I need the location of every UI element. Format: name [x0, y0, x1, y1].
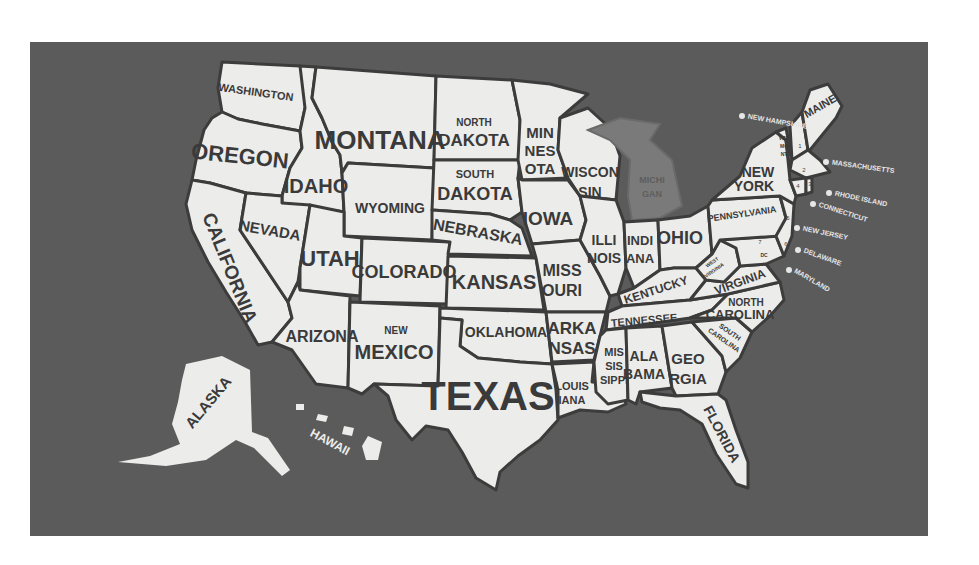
callout-delaware: DELAWARE	[795, 247, 843, 267]
hawaii-kauai[interactable]	[296, 404, 304, 410]
label-wisconsin-2: SIN	[578, 184, 601, 200]
label-montana: MONTANA	[315, 125, 446, 155]
label-alabama-2: BAMA	[623, 366, 665, 382]
label-wisconsin-1: WISCON	[561, 164, 619, 180]
label-illinois-1: ILLI	[592, 232, 617, 248]
label-arkansas-1: ARKA	[547, 319, 596, 338]
label-colorado: COLORADO	[352, 262, 457, 282]
label-louisiana-1: LOUIS	[555, 380, 589, 392]
label-oklahoma: OKLAHOMA	[465, 324, 547, 340]
hawaii-oahu[interactable]	[316, 414, 328, 422]
label-north-carolina-2: CAROLINA	[706, 307, 775, 322]
label-new-mexico-top: NEW	[384, 325, 408, 336]
label-missouri-1: MISS	[542, 262, 581, 279]
label-ohio: OHIO	[657, 228, 703, 248]
hawaii-big-island[interactable]	[362, 436, 382, 460]
label-minnesota-3: OTA	[525, 160, 556, 177]
svg-text:NEW JERSEY: NEW JERSEY	[802, 225, 849, 241]
label-new-york-2: YORK	[734, 178, 774, 194]
callout-new-jersey: NEW JERSEY	[794, 225, 849, 241]
label-kansas: KANSAS	[452, 271, 536, 293]
label-missouri-2: OURI	[542, 282, 582, 299]
callout-connecticut: CONNECTICUT	[810, 201, 869, 224]
label-mississippi-1: MIS	[604, 346, 624, 358]
label-south-dakota-top: SOUTH	[456, 168, 495, 180]
label-minnesota-1: MIN	[526, 124, 554, 141]
svg-text:CONNECTICUT: CONNECTICUT	[818, 201, 869, 224]
label-vermont-2: MO	[780, 143, 788, 149]
us-map: WASHINGTON OREGON CALIFORNIA IDAHO NEVAD…	[0, 0, 979, 565]
label-michigan-1: MICHI	[639, 175, 665, 185]
label-louisiana-2: IANA	[559, 394, 586, 406]
label-georgia-1: GEO	[671, 350, 705, 367]
label-alabama-1: ALA	[630, 348, 659, 364]
label-minnesota-2: NES	[525, 142, 556, 159]
label-texas: TEXAS	[421, 374, 554, 418]
svg-text:DELAWARE: DELAWARE	[803, 247, 843, 267]
label-iowa: IOWA	[523, 208, 574, 229]
label-arizona: ARIZONA	[286, 328, 359, 345]
label-wyoming: WYOMING	[355, 200, 425, 216]
callout-maryland: MARYLAND	[786, 267, 831, 293]
label-arkansas-2: NSAS	[548, 339, 595, 358]
label-mississippi-2: SIS	[605, 360, 623, 372]
label-vermont-1: VER	[779, 135, 790, 141]
label-indiana-1: INDI	[627, 233, 653, 248]
label-new-mexico-bottom: MEXICO	[355, 341, 434, 363]
label-idaho: IDAHO	[284, 175, 348, 197]
label-vermont-3: NT	[781, 151, 788, 157]
label-michigan-2: GAN	[642, 189, 662, 199]
label-georgia-2: RGIA	[669, 370, 707, 387]
svg-text:RHODE ISLAND: RHODE ISLAND	[834, 190, 888, 208]
label-illinois-2: NOIS	[587, 250, 621, 266]
svg-text:MASSACHUSETTS: MASSACHUSETTS	[832, 159, 896, 175]
label-north-dakota-bottom: DAKOTA	[438, 131, 509, 150]
label-south-dakota-bottom: DAKOTA	[437, 184, 513, 204]
callout-massachusetts: MASSACHUSETTS	[823, 159, 895, 175]
label-north-dakota-top: NORTH	[456, 117, 492, 128]
label-indiana-2: ANA	[626, 251, 655, 266]
label-dc: DC	[760, 252, 768, 258]
hawaii-maui[interactable]	[342, 426, 354, 436]
svg-text:MARYLAND: MARYLAND	[793, 267, 831, 293]
